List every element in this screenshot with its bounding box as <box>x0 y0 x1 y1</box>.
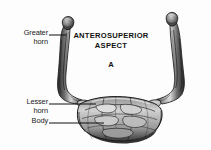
callout-label-lesser-horn: Lesser horn <box>6 98 48 115</box>
callout-greater-horn-line-2: horn <box>6 38 48 47</box>
callout-lesser-horn-line-2: horn <box>6 107 48 116</box>
callout-label-body: Body <box>6 117 48 126</box>
callout-label-greater-horn: Greater horn <box>6 29 48 46</box>
panel-letter: A <box>92 60 130 69</box>
anatomical-figure: ANTEROSUPERIOR ASPECT A Greater horn Les… <box>0 0 211 150</box>
callout-body-line-1: Body <box>6 117 48 126</box>
left-horn-tip <box>62 17 74 30</box>
hyoid-bone-illustration <box>0 0 211 150</box>
figure-title: ANTEROSUPERIOR ASPECT <box>72 31 150 50</box>
figure-title-line-2: ASPECT <box>72 41 150 51</box>
right-horn-tip <box>166 12 178 26</box>
figure-title-line-1: ANTEROSUPERIOR <box>72 31 150 41</box>
